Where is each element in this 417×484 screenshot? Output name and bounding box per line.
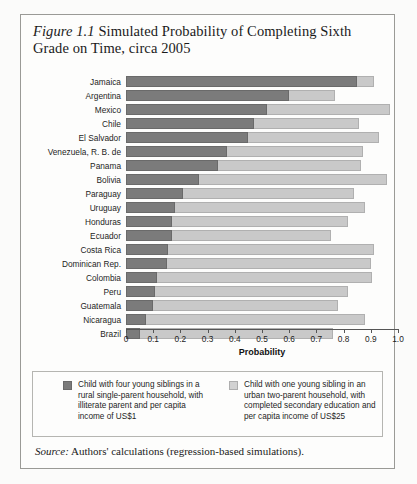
x-tick-mark xyxy=(371,330,372,333)
bar-segment-light xyxy=(172,216,347,227)
x-tick-mark xyxy=(262,330,263,333)
bar-row: Argentina xyxy=(126,89,398,103)
chart-legend: Child with four young siblings in a rura… xyxy=(32,371,383,437)
x-tick-mark xyxy=(316,330,317,333)
stacked-bar xyxy=(126,174,387,185)
stacked-bar xyxy=(126,314,365,325)
source-note: Source: Authors' calculations (regressio… xyxy=(35,445,375,457)
figure-number: Figure 1.1 xyxy=(33,23,95,39)
stacked-bar xyxy=(126,188,354,199)
bar-row: Mexico xyxy=(126,103,398,117)
y-axis-label: Argentina xyxy=(85,89,121,103)
bar-segment-light xyxy=(357,76,373,87)
y-axis-label: Honduras xyxy=(85,215,121,229)
bar-row: Peru xyxy=(126,285,398,299)
stacked-bar xyxy=(126,216,348,227)
bar-segment-light xyxy=(175,202,365,213)
bar-row: Ecuador xyxy=(126,229,398,243)
bar-segment-light xyxy=(155,286,348,297)
y-axis-label: Guatemala xyxy=(80,299,121,313)
x-axis-title: Probability xyxy=(126,347,398,357)
legend-label-light: Child with one young sibling in an urban… xyxy=(244,380,379,422)
bar-segment-light xyxy=(146,314,365,325)
bar-segment-light xyxy=(218,160,361,171)
bar-segment-light xyxy=(254,118,359,129)
x-tick-label: 0.2 xyxy=(175,334,187,344)
y-axis-label: Brazil xyxy=(100,327,121,341)
bar-row: Chile xyxy=(126,117,398,131)
stacked-bar xyxy=(126,202,365,213)
bar-row: Guatemala xyxy=(126,299,398,313)
y-axis-label: Costa Rica xyxy=(80,243,121,257)
stacked-bar xyxy=(126,286,348,297)
y-axis-label: Jamaica xyxy=(90,75,121,89)
bar-row: Costa Rica xyxy=(126,243,398,257)
y-axis-label: Uruguay xyxy=(90,201,121,215)
y-axis-label: Dominican Rep. xyxy=(62,257,121,271)
y-axis-label: Chile xyxy=(102,117,121,131)
bar-row: Honduras xyxy=(126,215,398,229)
legend-label-dark: Child with four young siblings in a rura… xyxy=(78,380,213,422)
bar-segment-light xyxy=(153,300,338,311)
bar-segment-dark xyxy=(126,146,227,157)
x-tick-label: 0.8 xyxy=(338,334,350,344)
bar-segment-dark xyxy=(126,230,172,241)
legend-swatch-dark-icon xyxy=(63,381,72,390)
bar-segment-light xyxy=(157,272,372,283)
x-tick-mark xyxy=(180,330,181,333)
bar-segment-light xyxy=(183,188,354,199)
bar-segment-light xyxy=(168,244,373,255)
x-tick-mark xyxy=(235,330,236,333)
stacked-bar xyxy=(126,76,374,87)
y-axis-label: Ecuador xyxy=(90,229,121,243)
bar-segment-dark xyxy=(126,286,155,297)
y-axis-label: Bolivia xyxy=(97,173,121,187)
chart: JamaicaArgentinaMexicoChileEl SalvadorVe… xyxy=(21,73,394,363)
bar-segment-dark xyxy=(126,174,199,185)
y-axis-label: Nicaragua xyxy=(83,313,121,327)
bar-row: Bolivia xyxy=(126,173,398,187)
bar-segment-light xyxy=(199,174,387,185)
bar-row: Nicaragua xyxy=(126,313,398,327)
bar-row: Uruguay xyxy=(126,201,398,215)
bar-segment-light xyxy=(167,258,371,269)
bar-row: Venezuela, R. B. de xyxy=(126,145,398,159)
bar-segment-dark xyxy=(126,202,175,213)
x-tick-label: 0.7 xyxy=(311,334,323,344)
bar-row: Jamaica xyxy=(126,75,398,89)
x-tick-mark xyxy=(126,330,127,333)
bar-segment-dark xyxy=(126,132,248,143)
bar-row: Colombia xyxy=(126,271,398,285)
x-tick-mark xyxy=(208,330,209,333)
bar-segment-light xyxy=(172,230,331,241)
y-axis-label: Mexico xyxy=(95,103,121,117)
bar-segment-light xyxy=(267,104,389,115)
bar-segment-light xyxy=(248,132,379,143)
source-text: Authors' calculations (regression-based … xyxy=(71,445,304,457)
figure-container: Figure 1.1 Simulated Probability of Comp… xyxy=(20,14,395,469)
stacked-bar xyxy=(126,132,379,143)
stacked-bar xyxy=(126,300,338,311)
bar-segment-dark xyxy=(126,314,146,325)
stacked-bar xyxy=(126,104,390,115)
bar-row: Paraguay xyxy=(126,187,398,201)
x-tick-mark xyxy=(344,330,345,333)
x-tick-label: 0.1 xyxy=(147,334,159,344)
bar-segment-dark xyxy=(126,90,289,101)
bar-rows: JamaicaArgentinaMexicoChileEl SalvadorVe… xyxy=(126,75,398,327)
page-title: Figure 1.1 Simulated Probability of Comp… xyxy=(33,23,385,57)
y-axis-label: Venezuela, R. B. de xyxy=(48,145,121,159)
stacked-bar xyxy=(126,272,372,283)
figure-page: Figure 1.1 Simulated Probability of Comp… xyxy=(0,0,417,484)
y-axis-label: Panama xyxy=(90,159,121,173)
bar-row: Dominican Rep. xyxy=(126,257,398,271)
legend-item-dark: Child with four young siblings in a rura… xyxy=(63,380,213,422)
y-axis-label: El Salvador xyxy=(79,131,121,145)
bar-segment-light xyxy=(289,90,335,101)
x-tick-label: 0.6 xyxy=(283,334,295,344)
stacked-bar xyxy=(126,258,371,269)
legend-item-light: Child with one young sibling in an urban… xyxy=(229,380,379,422)
stacked-bar xyxy=(126,90,335,101)
bar-segment-light xyxy=(227,146,363,157)
bar-segment-dark xyxy=(126,244,168,255)
